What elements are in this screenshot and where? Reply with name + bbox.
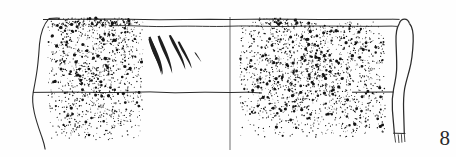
figure-number-label: 8 bbox=[440, 128, 451, 149]
figure-container: 8 bbox=[0, 0, 456, 157]
pottery-profile-drawing bbox=[0, 0, 456, 157]
